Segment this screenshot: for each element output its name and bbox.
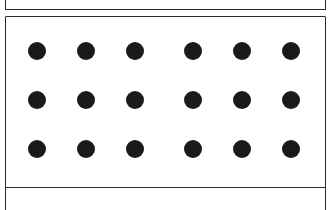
dot-icon (28, 42, 46, 60)
dot-icon (126, 42, 144, 60)
dot-icon (184, 42, 202, 60)
dot-icon (282, 42, 300, 60)
dot-icon (282, 91, 300, 109)
dot-icon (126, 140, 144, 158)
dot-grid-panel (5, 16, 326, 188)
dot-icon (233, 91, 251, 109)
dot-icon (233, 140, 251, 158)
dot-icon (184, 140, 202, 158)
dot-icon (28, 91, 46, 109)
dot-icon (77, 42, 95, 60)
dot-icon (233, 42, 251, 60)
dot-icon (77, 140, 95, 158)
dot-icon (282, 140, 300, 158)
bottom-panel (5, 187, 326, 210)
dot-icon (126, 91, 144, 109)
dot-icon (28, 140, 46, 158)
dot-icon (184, 91, 202, 109)
dot-icon (77, 91, 95, 109)
top-panel (5, 0, 326, 10)
